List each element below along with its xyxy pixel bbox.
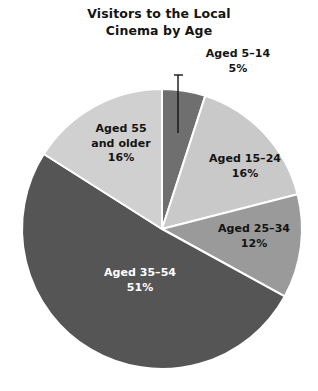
pie-label-aged-55-and-older-value: 16% (64, 151, 178, 166)
pie-label-aged-35-54: Aged 35–54 51% (62, 266, 218, 295)
pie-label-aged-35-54-category: Aged 35–54 (62, 266, 218, 281)
pie-label-aged-15-24-category: Aged 15–24 (185, 152, 305, 167)
pie-label-aged-25-34-value: 12% (198, 237, 310, 252)
pie-label-aged-55-and-older: Aged 55 and older 16% (64, 122, 178, 166)
pie-label-aged-15-24-value: 16% (185, 167, 305, 182)
pie-label-aged-25-34-category: Aged 25–34 (198, 222, 310, 237)
pie-label-aged-5-14-value: 5% (168, 62, 308, 77)
pie-label-aged-5-14: Aged 5–14 5% (168, 47, 308, 76)
pie-label-aged-25-34: Aged 25–34 12% (198, 222, 310, 251)
pie-label-aged-55-and-older-category-line-1: Aged 55 (64, 122, 178, 137)
pie-chart-figure: Visitors to the Local Cinema by Age Aged… (0, 0, 318, 391)
pie-label-aged-55-and-older-category-line-2: and older (64, 137, 178, 152)
pie-label-aged-5-14-category: Aged 5–14 (168, 47, 308, 62)
pie-label-aged-35-54-value: 51% (62, 281, 218, 296)
pie-label-aged-15-24: Aged 15–24 16% (185, 152, 305, 181)
